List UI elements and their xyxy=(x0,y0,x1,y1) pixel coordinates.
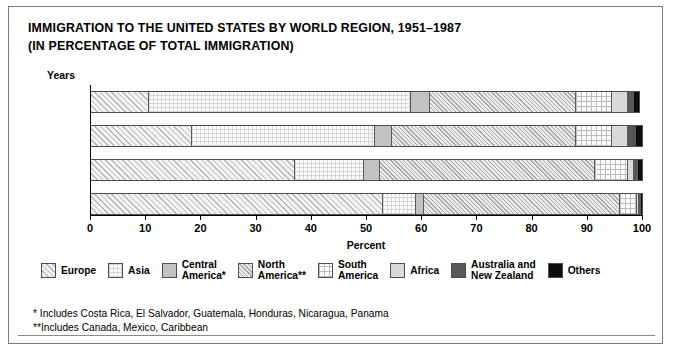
legend-label-others: Others xyxy=(568,265,601,276)
stacked-bar xyxy=(91,91,640,113)
footnotes: * Includes Costa Rica, El Salvador, Guat… xyxy=(33,307,633,335)
footnote-two: **Includes Canada, Mexico, Caribbean xyxy=(33,321,633,335)
x-axis-tick xyxy=(256,215,257,220)
footer-divider xyxy=(18,335,655,336)
bar-segment-europe xyxy=(91,194,383,214)
x-axis-tick xyxy=(366,215,367,220)
bar-segment-central xyxy=(364,160,381,180)
footnote-one: * Includes Costa Rica, El Salvador, Guat… xyxy=(33,307,633,321)
bar-segment-others xyxy=(638,160,642,180)
bar-segment-north xyxy=(392,126,576,146)
legend-label-aus: Australia and New Zealand xyxy=(471,259,536,281)
legend-item-others: Others xyxy=(548,263,601,278)
legend-swatch-north xyxy=(238,263,253,278)
x-axis-label: Percent xyxy=(90,239,642,251)
stacked-bar xyxy=(91,193,643,215)
bar-segment-africa xyxy=(612,92,629,112)
bar-segment-south xyxy=(595,160,628,180)
legend-item-asia: Asia xyxy=(108,263,150,278)
legend-label-central: Central America* xyxy=(182,259,226,281)
chart-legend: EuropeAsiaCentral America*North America*… xyxy=(41,259,641,281)
bar-segment-central xyxy=(411,92,430,112)
legend-item-africa: Africa xyxy=(390,263,439,278)
legend-label-north: North America** xyxy=(258,259,306,281)
chart-title-line-1: IMMIGRATION TO THE UNITED STATES BY WORL… xyxy=(28,19,628,37)
legend-swatch-europe xyxy=(41,263,56,278)
stacked-bar xyxy=(91,125,643,147)
x-axis-tick xyxy=(642,215,643,220)
x-axis-tick-label: 90 xyxy=(581,222,593,234)
y-axis-title: Years xyxy=(47,69,75,81)
bar-segment-south xyxy=(576,126,612,146)
x-axis-tick xyxy=(311,215,312,220)
x-axis-tick xyxy=(532,215,533,220)
bar-segment-europe xyxy=(91,160,295,180)
x-axis-tick-label: 50 xyxy=(360,222,372,234)
x-axis-tick-label: 60 xyxy=(415,222,427,234)
bar-segment-central xyxy=(416,194,424,214)
legend-item-south: South America xyxy=(318,259,378,281)
legend-label-europe: Europe xyxy=(61,265,96,276)
legend-label-south: South America xyxy=(338,259,378,281)
legend-swatch-africa xyxy=(390,263,405,278)
bar-segment-north xyxy=(430,92,576,112)
legend-swatch-others xyxy=(548,263,563,278)
bar-segment-asia xyxy=(192,126,376,146)
stacked-bar xyxy=(91,159,643,181)
bar-segment-north xyxy=(380,160,595,180)
legend-item-aus: Australia and New Zealand xyxy=(451,259,536,281)
bar-segment-others xyxy=(641,194,642,214)
x-axis-tick-label: 70 xyxy=(470,222,482,234)
plot-area: 1981–19871971–19801961–19701951–1960 010… xyxy=(90,85,642,215)
bar-segment-others xyxy=(634,92,640,112)
chart-title: IMMIGRATION TO THE UNITED STATES BY WORL… xyxy=(28,19,628,55)
bar-segment-asia xyxy=(383,194,416,214)
x-axis-tick-label: 0 xyxy=(87,222,93,234)
x-axis-tick-label: 100 xyxy=(633,222,651,234)
bar-segment-central xyxy=(375,126,392,146)
bar-segment-asia xyxy=(149,92,411,112)
legend-swatch-central xyxy=(162,263,177,278)
legend-item-north: North America** xyxy=(238,259,306,281)
x-axis-tick-label: 30 xyxy=(249,222,261,234)
bar-segment-europe xyxy=(91,126,192,146)
x-axis-tick-label: 80 xyxy=(525,222,537,234)
bar-segment-north xyxy=(424,194,620,214)
x-axis-tick xyxy=(421,215,422,220)
x-axis-tick xyxy=(200,215,201,220)
legend-label-asia: Asia xyxy=(128,265,150,276)
bar-segment-africa xyxy=(612,126,629,146)
x-axis-tick-label: 20 xyxy=(194,222,206,234)
x-axis-tick xyxy=(145,215,146,220)
legend-swatch-south xyxy=(318,263,333,278)
legend-swatch-aus xyxy=(451,263,466,278)
x-axis-tick-label: 40 xyxy=(305,222,317,234)
legend-label-africa: Africa xyxy=(410,265,439,276)
legend-item-central: Central America* xyxy=(162,259,226,281)
bar-segment-south xyxy=(576,92,612,112)
legend-swatch-asia xyxy=(108,263,123,278)
x-axis-tick xyxy=(476,215,477,220)
chart-frame: IMMIGRATION TO THE UNITED STATES BY WORL… xyxy=(8,6,663,344)
x-axis-tick-label: 10 xyxy=(139,222,151,234)
legend-item-europe: Europe xyxy=(41,263,96,278)
bar-segment-europe xyxy=(91,92,149,112)
x-axis-tick xyxy=(587,215,588,220)
chart-title-line-2: (IN PERCENTAGE OF TOTAL IMMIGRATION) xyxy=(28,37,628,55)
bar-segment-south xyxy=(620,194,637,214)
bar-segment-others xyxy=(636,126,642,146)
x-axis-tick xyxy=(90,215,91,220)
bar-segment-aus xyxy=(628,126,636,146)
bar-segment-asia xyxy=(295,160,364,180)
